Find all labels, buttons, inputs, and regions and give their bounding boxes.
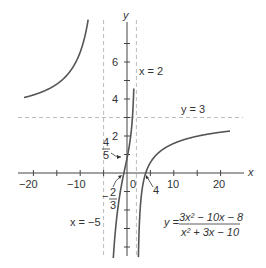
x-intercept-denominator: 3 [110,199,116,211]
y-intercept-denominator: 5 [103,149,109,161]
arrowhead-icon [146,175,149,179]
asymptote-label-x2: x = 2 [139,65,163,77]
arrowhead-icon [117,155,121,159]
tick-label-y6: 6 [112,56,118,68]
curve-left-branch [24,20,88,98]
graph: y x −20 −10 0 10 20 6 4 2 x = 2 x = −5 y… [0,0,266,268]
y-axis-label: y [122,9,130,21]
tick-label-0: 0 [130,178,136,190]
tick-label-neg10: −10 [67,178,86,190]
equation-prefix: y = [163,216,180,228]
equation-denominator: x² + 3x − 10 [180,226,240,238]
tick-label-10: 10 [167,178,179,190]
arrow-icon [147,177,153,187]
x-axis-label: x [247,166,254,178]
tick-label-y2: 2 [112,130,118,142]
x-intercept-sign: − [102,190,108,202]
equation-numerator: 3x² − 10x − 8 [179,211,244,223]
tick-label-y4: 4 [112,93,118,105]
tick-label-neg20: −20 [19,178,38,190]
asymptote-label-y3: y = 3 [181,103,205,115]
tick-label-20: 20 [213,178,225,190]
x-intercept-4: 4 [153,184,159,196]
asymptote-label-xneg5: x = −5 [70,216,101,228]
y-intercept-numerator: 4 [103,136,109,148]
x-intercept-numerator: 2 [110,186,116,198]
